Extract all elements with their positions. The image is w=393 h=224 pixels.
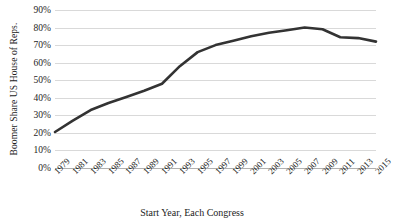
y-axis-tick-label: 90% — [18, 5, 51, 15]
y-axis-tick-label: 0% — [18, 163, 51, 173]
y-axis-tick-label: 60% — [18, 58, 51, 68]
plot-area — [55, 10, 376, 168]
x-axis-title: Start Year, Each Congress — [0, 207, 384, 218]
y-axis-tick-label: 20% — [18, 128, 51, 138]
y-axis-tick-label: 80% — [18, 23, 51, 33]
series-polyline — [55, 28, 376, 132]
y-axis-tick-label: 50% — [18, 75, 51, 85]
y-axis-tick-label: 70% — [18, 40, 51, 50]
line-series — [55, 10, 376, 168]
y-axis-tick-label: 30% — [18, 110, 51, 120]
y-axis-tick-label: 10% — [18, 145, 51, 155]
x-axis-tick-labels: 1979198119831985198719891991199319951997… — [55, 169, 376, 207]
y-axis-tick-labels: 0%10%20%30%40%50%60%70%80%90% — [18, 0, 51, 224]
y-axis-tick-label: 40% — [18, 93, 51, 103]
